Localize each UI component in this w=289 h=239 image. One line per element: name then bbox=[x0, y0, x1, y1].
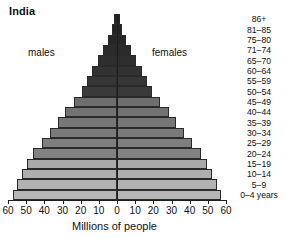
age-group-label: 5–9 bbox=[229, 180, 289, 190]
age-group-label: 65–70 bbox=[229, 56, 289, 66]
bar-males bbox=[33, 148, 117, 158]
x-axis-tick bbox=[226, 200, 227, 204]
x-axis-tick-label: 10 bbox=[89, 205, 109, 216]
bar-males bbox=[108, 35, 117, 45]
x-axis-tick-label: 30 bbox=[53, 205, 73, 216]
bar-females bbox=[117, 55, 136, 65]
pyramid-row bbox=[0, 76, 229, 86]
x-axis-tick bbox=[63, 200, 64, 204]
bar-males bbox=[13, 190, 117, 200]
bar-males bbox=[17, 179, 117, 189]
bar-females bbox=[117, 97, 160, 107]
x-axis-tick-label: 10 bbox=[125, 205, 145, 216]
pyramid-row bbox=[0, 14, 229, 24]
bar-males bbox=[82, 86, 117, 96]
bar-females bbox=[117, 76, 147, 86]
x-axis-tick bbox=[172, 200, 173, 204]
bar-males bbox=[98, 55, 117, 65]
age-group-label: 60–64 bbox=[229, 66, 289, 76]
bar-females bbox=[117, 138, 192, 148]
x-axis-tick-label: 20 bbox=[143, 205, 163, 216]
pyramid-row bbox=[0, 128, 229, 138]
center-axis-line bbox=[117, 14, 118, 200]
x-axis-tick bbox=[26, 200, 27, 204]
x-axis-tick bbox=[117, 200, 118, 204]
age-group-label: 71–74 bbox=[229, 45, 289, 55]
bar-females bbox=[117, 66, 142, 76]
age-group-label: 10–14 bbox=[229, 169, 289, 179]
bar-females bbox=[117, 190, 221, 200]
x-axis-tick bbox=[81, 200, 82, 204]
x-axis-tick bbox=[135, 200, 136, 204]
pyramid-row bbox=[0, 169, 229, 179]
x-axis-tick-label: 40 bbox=[180, 205, 200, 216]
x-axis-tick-label: 60 bbox=[216, 205, 236, 216]
pyramid-row bbox=[0, 190, 229, 200]
age-group-label: 20–24 bbox=[229, 149, 289, 159]
bar-males bbox=[65, 107, 117, 117]
age-group-labels: 86+81–8575–8071–7465–7060–6455–5950–5445… bbox=[229, 14, 289, 200]
age-group-label: 55–59 bbox=[229, 76, 289, 86]
x-axis-tick-label: 30 bbox=[162, 205, 182, 216]
x-axis-tick-label: 20 bbox=[71, 205, 91, 216]
x-axis-tick bbox=[190, 200, 191, 204]
age-group-label: 35–39 bbox=[229, 118, 289, 128]
bar-females bbox=[117, 35, 126, 45]
age-group-label: 75–80 bbox=[229, 35, 289, 45]
age-group-label: 25–29 bbox=[229, 138, 289, 148]
bar-males bbox=[103, 45, 117, 55]
x-axis-tick-label: 50 bbox=[16, 205, 36, 216]
x-axis-tick bbox=[99, 200, 100, 204]
age-group-label: 15–19 bbox=[229, 159, 289, 169]
pyramid-row bbox=[0, 138, 229, 148]
bar-females bbox=[117, 86, 152, 96]
age-group-label: 50–54 bbox=[229, 87, 289, 97]
bar-males bbox=[58, 117, 117, 127]
bar-males bbox=[92, 66, 117, 76]
pyramid-row bbox=[0, 66, 229, 76]
x-axis-tick bbox=[44, 200, 45, 204]
pyramid-row bbox=[0, 97, 229, 107]
x-axis-tick bbox=[153, 200, 154, 204]
x-axis-tick bbox=[208, 200, 209, 204]
age-group-label: 0–4 years bbox=[229, 190, 289, 200]
population-pyramid-chart: India 6050403020100102030405060 Millions… bbox=[0, 0, 289, 239]
age-group-label: 86+ bbox=[229, 14, 289, 24]
x-axis-title: Millions of people bbox=[0, 220, 229, 232]
age-group-label: 30–34 bbox=[229, 128, 289, 138]
series-label-males: males bbox=[28, 47, 55, 58]
age-group-label: 81–85 bbox=[229, 25, 289, 35]
pyramid-row bbox=[0, 35, 229, 45]
pyramid-row bbox=[0, 86, 229, 96]
x-axis-tick-label: 50 bbox=[198, 205, 218, 216]
bar-females bbox=[117, 128, 184, 138]
bar-females bbox=[117, 179, 217, 189]
plot-area bbox=[0, 14, 229, 200]
pyramid-row bbox=[0, 159, 229, 169]
bar-females bbox=[117, 169, 212, 179]
bar-males bbox=[87, 76, 117, 86]
bar-females bbox=[117, 159, 207, 169]
pyramid-row bbox=[0, 148, 229, 158]
bar-females bbox=[117, 45, 131, 55]
bar-males bbox=[74, 97, 117, 107]
pyramid-row bbox=[0, 107, 229, 117]
bar-females bbox=[117, 148, 201, 158]
pyramid-row bbox=[0, 117, 229, 127]
pyramid-row bbox=[0, 179, 229, 189]
bar-males bbox=[42, 138, 117, 148]
bar-males bbox=[27, 159, 117, 169]
age-group-label: 40–44 bbox=[229, 107, 289, 117]
pyramid-row bbox=[0, 24, 229, 34]
x-axis-tick bbox=[8, 200, 9, 204]
bar-males bbox=[50, 128, 117, 138]
bar-females bbox=[117, 107, 169, 117]
bar-females bbox=[117, 117, 176, 127]
x-axis-tick-label: 40 bbox=[34, 205, 54, 216]
series-label-females: females bbox=[152, 47, 187, 58]
bar-males bbox=[22, 169, 117, 179]
x-axis-tick-label: 0 bbox=[107, 205, 127, 216]
age-group-label: 45–49 bbox=[229, 97, 289, 107]
